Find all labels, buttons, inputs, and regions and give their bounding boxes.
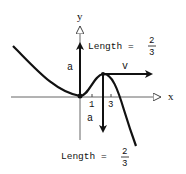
top-length-annotation: Length = 2 3 bbox=[88, 36, 156, 58]
x-axis-label: x bbox=[168, 90, 174, 102]
bottom-length-prefix: Length = bbox=[61, 151, 107, 162]
top-length-prefix: Length = bbox=[88, 41, 134, 52]
bottom-length-numerator: 2 bbox=[122, 147, 127, 157]
tick-label-3: 3 bbox=[108, 100, 113, 110]
top-length-numerator: 2 bbox=[149, 36, 154, 46]
bottom-length-denominator: 3 bbox=[122, 159, 127, 169]
diagram-canvas: x y 1 3 a v a Length = 2 3 Length = 2 3 bbox=[0, 0, 186, 174]
top-length-denominator: 3 bbox=[149, 48, 154, 58]
acceleration-down-label: a bbox=[87, 113, 93, 124]
bottom-length-annotation: Length = 2 3 bbox=[61, 147, 129, 169]
y-axis-label: y bbox=[77, 10, 83, 22]
tick-label-1: 1 bbox=[89, 100, 94, 110]
curve bbox=[13, 46, 136, 146]
acceleration-up-label: a bbox=[67, 62, 73, 73]
velocity-label: v bbox=[122, 61, 128, 72]
